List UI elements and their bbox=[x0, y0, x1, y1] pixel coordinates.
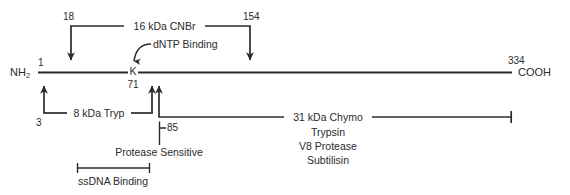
n-terminus-label: NH2 bbox=[10, 67, 30, 80]
active-site-residue-number: 71 bbox=[127, 80, 138, 90]
ssdna-binding-bracket bbox=[77, 163, 150, 173]
residue-number-18: 18 bbox=[63, 12, 74, 22]
residue-number-154: 154 bbox=[243, 12, 260, 22]
c-terminus-label: COOH bbox=[518, 67, 551, 78]
chymo-protease-trypsin: Trypsin bbox=[311, 127, 345, 138]
protein-domain-map: NH2 1 COOH 334 K 71 18 154 16 kDa CNBr d… bbox=[0, 0, 570, 195]
residue-number-85: 85 bbox=[167, 123, 178, 133]
dntp-binding-pointer bbox=[134, 44, 151, 61]
chymo-protease-subtilisin: Subtilisin bbox=[307, 155, 349, 166]
residue-number-1: 1 bbox=[38, 58, 44, 68]
n-terminus-subscript: 2 bbox=[26, 71, 30, 80]
residue-number-334: 334 bbox=[508, 56, 525, 66]
tryp-fragment-label: 8 kDa Tryp bbox=[74, 108, 125, 119]
chymo-protease-v8: V8 Protease bbox=[299, 141, 357, 152]
dntp-binding-label: dNTP Binding bbox=[153, 39, 218, 50]
protease-sensitive-label: Protease Sensitive bbox=[115, 147, 203, 158]
diagram-lines bbox=[0, 0, 570, 195]
cnbr-fragment-label: 16 kDa CNBr bbox=[134, 21, 196, 32]
ssdna-binding-label: ssDNA Binding bbox=[78, 176, 148, 187]
active-site-residue-letter: K bbox=[128, 66, 138, 77]
residue-number-3: 3 bbox=[36, 118, 42, 128]
chymo-fragment-label: 31 kDa Chymo bbox=[293, 112, 362, 123]
protease-sensitive-leader bbox=[160, 122, 167, 146]
